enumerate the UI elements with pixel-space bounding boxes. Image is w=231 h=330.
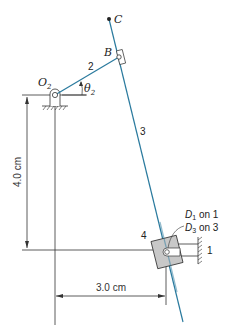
label-d1-on-1: D1 on 1 xyxy=(185,209,219,221)
horizontal-dimension-label: 3.0 cm xyxy=(96,282,126,293)
label-o2: O2 xyxy=(38,76,52,91)
o2-pin-icon xyxy=(52,92,57,97)
label-c: C xyxy=(114,13,123,26)
label-theta2: θ2 xyxy=(84,82,96,97)
label-link-3: 3 xyxy=(140,126,146,137)
point-c-icon xyxy=(107,17,111,21)
label-link-1: 1 xyxy=(207,245,213,256)
d-pin-icon xyxy=(165,250,170,255)
diagram-svg: 4.0 cm 3.0 cm xyxy=(0,0,231,330)
b-pin-icon xyxy=(117,55,121,59)
arrow-right-icon xyxy=(158,294,165,298)
arrow-down-icon xyxy=(25,241,29,248)
vertical-dimension-label: 4.0 cm xyxy=(12,157,23,187)
label-link-2: 2 xyxy=(88,61,94,72)
arrow-up-icon xyxy=(25,97,29,104)
label-b: B xyxy=(103,46,112,59)
label-d3-on-3: D3 on 3 xyxy=(185,222,219,234)
angle-arrow-icon xyxy=(79,81,83,86)
mechanism-diagram: 4.0 cm 3.0 cm xyxy=(0,0,231,330)
label-link-4: 4 xyxy=(141,230,147,241)
arrow-left-icon xyxy=(56,294,63,298)
